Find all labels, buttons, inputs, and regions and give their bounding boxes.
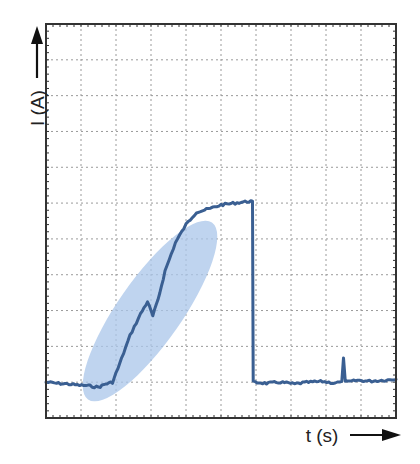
y-axis-label: I (A) [27, 90, 48, 126]
y-axis-label-group: I (A) [27, 26, 48, 126]
x-axis-arrowhead-icon [382, 429, 401, 441]
x-axis-label: t (s) [306, 425, 339, 446]
chart: I (A) t (s) [0, 0, 420, 464]
x-axis-label-group: t (s) [306, 425, 401, 446]
y-axis-arrowhead-icon [31, 26, 43, 44]
